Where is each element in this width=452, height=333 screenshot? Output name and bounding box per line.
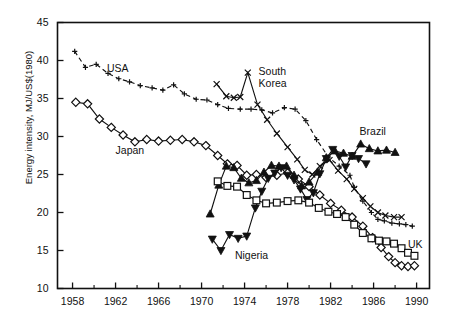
annotation-usa: USA (107, 63, 129, 75)
chart-plot-area: 1015202530354045195819621966197019741978… (0, 0, 452, 333)
annotation-south-korea: South Korea (259, 66, 287, 89)
annotation-nigeria: Nigeria (235, 250, 268, 262)
svg-text:1982: 1982 (319, 295, 343, 307)
svg-text:35: 35 (37, 92, 49, 104)
svg-text:25: 25 (37, 168, 49, 180)
svg-text:15: 15 (37, 244, 49, 256)
svg-text:10: 10 (37, 282, 49, 294)
svg-text:1990: 1990 (405, 295, 429, 307)
svg-text:20: 20 (37, 206, 49, 218)
svg-text:45: 45 (37, 16, 49, 28)
svg-text:40: 40 (37, 54, 49, 66)
svg-text:1970: 1970 (190, 295, 214, 307)
annotation-uk: UK (408, 239, 423, 251)
svg-text:1974: 1974 (233, 295, 257, 307)
svg-text:1978: 1978 (276, 295, 300, 307)
annotation-japan: Japan (116, 145, 145, 157)
y-axis-label: Energy intensity, MJ/US$(1980) (23, 38, 34, 198)
series-japan (72, 98, 419, 270)
svg-text:1962: 1962 (104, 295, 128, 307)
svg-text:1958: 1958 (61, 295, 85, 307)
data-series-layer (72, 49, 419, 271)
svg-text:30: 30 (37, 130, 49, 142)
figure: 1015202530354045195819621966197019741978… (0, 0, 452, 333)
annotation-brazil: Brazil (360, 126, 386, 138)
svg-text:1986: 1986 (362, 295, 386, 307)
svg-text:1966: 1966 (147, 295, 171, 307)
